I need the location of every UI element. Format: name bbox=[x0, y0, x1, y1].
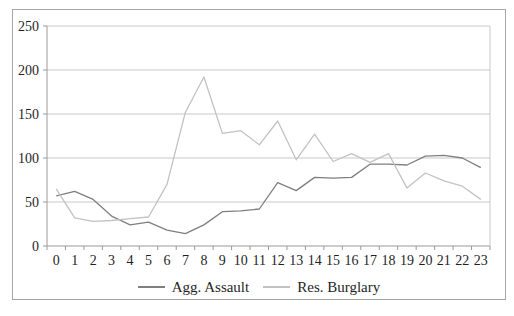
x-axis-tick-label: 17 bbox=[363, 253, 377, 268]
x-axis-tick-label: 22 bbox=[455, 253, 469, 268]
y-axis-tick-label: 100 bbox=[18, 151, 39, 166]
x-axis-tick-label: 13 bbox=[289, 253, 303, 268]
chart-legend: Agg. Assault Res. Burglary bbox=[13, 276, 505, 298]
legend-label-agg-assault: Agg. Assault bbox=[172, 279, 250, 296]
x-axis-tick-label: 9 bbox=[219, 253, 226, 268]
series-line-res-burglary bbox=[56, 77, 481, 221]
y-axis-tick-label: 50 bbox=[25, 195, 39, 210]
line-chart-plot-area: 0501001502002500123456789101112131415161… bbox=[13, 10, 505, 272]
x-axis-tick-label: 0 bbox=[53, 253, 60, 268]
series-line-agg-assault bbox=[56, 155, 481, 233]
x-axis-tick-label: 19 bbox=[400, 253, 414, 268]
x-axis-tick-label: 14 bbox=[308, 253, 322, 268]
x-axis-tick-label: 4 bbox=[127, 253, 134, 268]
x-axis-tick-label: 3 bbox=[108, 253, 115, 268]
x-axis-tick-label: 10 bbox=[234, 253, 248, 268]
y-axis-tick-label: 200 bbox=[18, 63, 39, 78]
x-axis-tick-label: 6 bbox=[163, 253, 170, 268]
x-axis-tick-label: 21 bbox=[437, 253, 451, 268]
y-axis-tick-label: 250 bbox=[18, 19, 39, 34]
x-axis-tick-label: 8 bbox=[200, 253, 207, 268]
chart-outer-border: 0501001502002500123456789101112131415161… bbox=[12, 9, 506, 300]
x-axis-tick-label: 11 bbox=[253, 253, 266, 268]
x-axis-tick-label: 1 bbox=[71, 253, 78, 268]
legend-line-swatch-res-burglary bbox=[263, 286, 290, 288]
x-axis-tick-label: 7 bbox=[182, 253, 189, 268]
legend-item-res-burglary: Res. Burglary bbox=[263, 279, 380, 296]
x-axis-tick-label: 2 bbox=[90, 253, 97, 268]
x-axis-tick-label: 23 bbox=[474, 253, 488, 268]
legend-item-agg-assault: Agg. Assault bbox=[138, 279, 250, 296]
x-axis-tick-label: 20 bbox=[418, 253, 432, 268]
x-axis-tick-label: 18 bbox=[381, 253, 395, 268]
legend-label-res-burglary: Res. Burglary bbox=[297, 279, 380, 296]
x-axis-tick-label: 5 bbox=[145, 253, 152, 268]
y-axis-tick-label: 0 bbox=[32, 239, 39, 254]
legend-line-swatch-agg-assault bbox=[138, 286, 165, 288]
x-axis-tick-label: 16 bbox=[345, 253, 359, 268]
y-axis-tick-label: 150 bbox=[18, 107, 39, 122]
x-axis-tick-label: 15 bbox=[326, 253, 340, 268]
x-axis-tick-label: 12 bbox=[271, 253, 285, 268]
